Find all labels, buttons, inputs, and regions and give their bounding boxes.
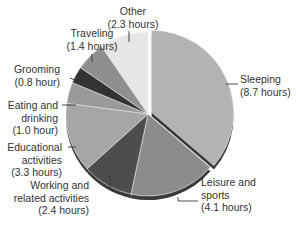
- label-educational: Educational activities (3.3 hours): [7, 141, 62, 179]
- label-value: (3.3 hours): [7, 166, 62, 179]
- label-value: (0.8 hour): [14, 76, 60, 89]
- leader-leisure: [178, 197, 198, 201]
- label-text: sports: [201, 189, 256, 202]
- label-text: Other: [100, 5, 166, 18]
- label-value: (8.7 hours): [240, 86, 291, 99]
- label-value: (1.4 hours): [60, 40, 124, 53]
- label-value: (1.0 hour): [8, 124, 58, 137]
- label-grooming: Grooming (0.8 hour): [14, 63, 60, 88]
- label-other: Other (2.3 hours): [100, 5, 166, 30]
- label-text: Working and: [14, 179, 89, 192]
- label-text: Sleeping: [240, 73, 291, 86]
- label-text: related activities: [14, 192, 89, 205]
- label-text: activities: [7, 154, 62, 167]
- label-text: Eating and: [8, 99, 58, 112]
- label-leisure: Leisure and sports (4.1 hours): [201, 176, 256, 214]
- label-value: (2.4 hours): [14, 204, 89, 217]
- label-working: Working and related activities (2.4 hour…: [14, 179, 89, 217]
- label-eating: Eating and drinking (1.0 hour): [8, 99, 58, 137]
- label-text: Educational: [7, 141, 62, 154]
- label-value: (4.1 hours): [201, 201, 256, 214]
- pie-slices: [66, 30, 234, 200]
- label-sleeping: Sleeping (8.7 hours): [240, 73, 291, 98]
- label-text: Grooming: [14, 63, 60, 76]
- label-traveling: Traveling (1.4 hours): [60, 27, 124, 52]
- label-value: (2.3 hours): [100, 18, 166, 31]
- label-text: Leisure and: [201, 176, 256, 189]
- label-text: drinking: [8, 112, 58, 125]
